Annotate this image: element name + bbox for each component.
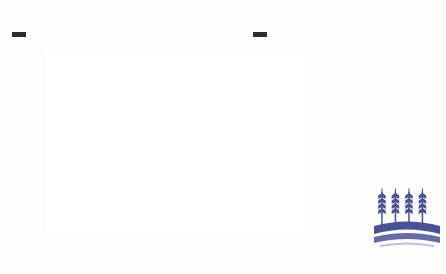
total-end-badge	[253, 32, 267, 37]
line-chart-plot	[46, 50, 310, 237]
infographic-root	[0, 0, 446, 274]
wheat-logo-icon	[372, 186, 442, 248]
x-axis-labels	[46, 239, 310, 251]
plot-background	[46, 50, 310, 237]
total-start-badge	[12, 32, 26, 37]
chart-svg	[46, 50, 310, 237]
